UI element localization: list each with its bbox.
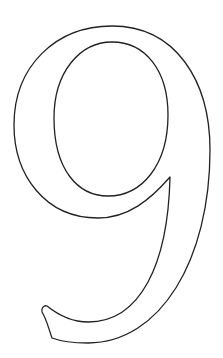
inner-counter xyxy=(54,42,168,196)
digit-nine-outline-figure: 9 xyxy=(0,0,223,358)
nine-outline-icon xyxy=(0,0,223,358)
outer-contour xyxy=(14,26,210,343)
